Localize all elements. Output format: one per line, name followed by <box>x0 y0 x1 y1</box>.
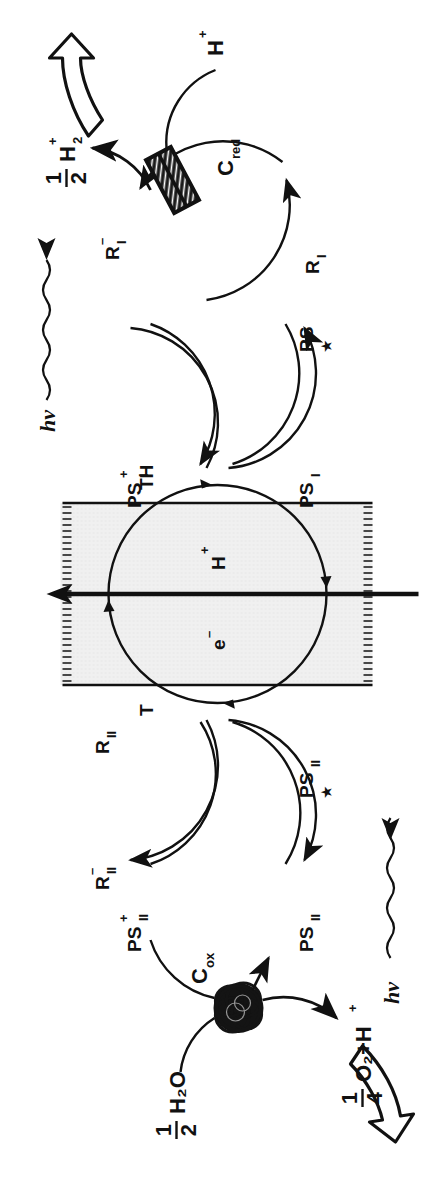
hydrogen-formula: H <box>54 146 79 162</box>
ps1-ox-charge: + <box>115 470 130 478</box>
ps2-relay-subscript: II <box>103 731 118 738</box>
cox-base: C <box>186 968 211 984</box>
carrier-label: T <box>135 704 156 716</box>
ps1-relay-base: R <box>301 260 322 274</box>
oxygen-charge: + <box>344 1004 359 1012</box>
ps2-ex-subscript: II <box>307 760 322 767</box>
water-frac-num: 1 <box>150 1124 175 1136</box>
oxidation-catalyst-blob <box>213 983 263 1033</box>
cred-base: C <box>212 160 237 176</box>
proton-charge: + <box>196 546 211 554</box>
ps2-ox-subscript: II <box>135 914 150 921</box>
ps2-base: PS <box>295 927 316 952</box>
ps2-relay-red-charge: – <box>83 868 98 875</box>
oxygen-formula: O₂+H <box>350 1026 375 1082</box>
ps2-relay-red-base: R <box>91 876 112 890</box>
water-formula: H₂O <box>164 1071 189 1114</box>
oxygen-frac-num: 1 <box>336 1092 361 1104</box>
oxygen-frac-den: 4 <box>361 1091 386 1104</box>
proton-input-base: H <box>202 40 227 56</box>
diagram-canvas: 1 2 H₂O 1 4 O₂+H + C ox PS II + PS <box>0 0 433 1190</box>
photon-label-ps1: hν <box>34 410 59 432</box>
water-frac-den: 2 <box>175 1124 200 1136</box>
ps1-base: PS <box>295 483 316 508</box>
ps2-ox-base: PS <box>123 927 144 952</box>
electron-base: e <box>207 639 228 650</box>
ps2-relay-base: R <box>91 740 112 754</box>
ps2-relay-red-subscript: II <box>103 867 118 874</box>
proton-input-charge: + <box>194 30 209 38</box>
ps1-relay-red-base: R <box>101 246 122 260</box>
ps2-subscript: II <box>307 914 322 921</box>
photon-label-ps2: hν <box>378 982 403 1004</box>
ps1-relay-subscript: I <box>313 254 328 258</box>
hydrogen-frac-den: 2 <box>65 172 90 184</box>
ps1-relay-red-charge: – <box>93 238 108 245</box>
ps2-ex-star: ★ <box>318 786 333 798</box>
hydrogen-charge: + <box>44 137 59 145</box>
electron-charge: – <box>200 631 215 638</box>
ps2-ox-charge: + <box>115 914 130 922</box>
ps1-ox-subscript: I <box>135 473 150 477</box>
figure-root: 1 2 H₂O 1 4 O₂+H + C ox PS II + PS <box>0 0 433 1190</box>
ps1-ex-star: ★ <box>318 340 333 352</box>
cox-subscript: ox <box>201 952 216 968</box>
diagram-svg: 1 2 H₂O 1 4 O₂+H + C ox PS II + PS <box>0 0 433 1190</box>
ps2-ex-base: PS <box>295 773 316 798</box>
hydrogen-sub: 2 <box>69 137 84 144</box>
ps1-ex-base: PS <box>295 327 316 352</box>
hydrogen-frac-num: 1 <box>40 172 65 184</box>
cred-subscript: red <box>227 139 242 159</box>
proton-base: H <box>207 556 228 570</box>
ps1-subscript: I <box>307 473 322 477</box>
ps1-ox-base: PS <box>123 483 144 508</box>
ps1-relay-red-subscript: I <box>113 240 128 244</box>
